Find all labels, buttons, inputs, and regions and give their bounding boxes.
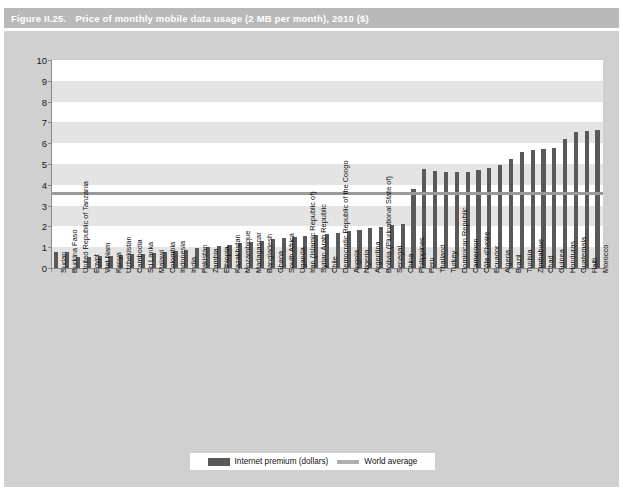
x-tick-label: Ecuador: [492, 245, 501, 273]
y-tick-mark: [48, 164, 52, 165]
y-tick-mark: [48, 60, 52, 61]
x-axis-labels: SudanBurkina FasoUnited Republic of Tanz…: [51, 273, 603, 433]
figure-container: Figure II.25. Price of monthly mobile da…: [0, 0, 623, 495]
y-tick-label: 2: [25, 221, 47, 232]
x-tick-label: Haiti: [590, 258, 599, 273]
y-tick-label: 4: [25, 179, 47, 190]
x-tick-label: Dominican Republic: [460, 207, 469, 273]
y-tick-mark: [48, 102, 52, 103]
legend-label-internet-premium: Internet premium (dollars): [235, 457, 329, 466]
bar: [552, 148, 556, 268]
bar: [433, 171, 437, 268]
x-tick-label: Colombia: [168, 242, 177, 273]
x-tick-label: United Republic of Tanzania: [81, 181, 90, 273]
legend-item-world-average: World average: [337, 457, 417, 466]
y-tick-mark: [48, 206, 52, 207]
y-axis-labels: 012345678910: [23, 60, 47, 269]
y-tick-mark: [48, 143, 52, 144]
y-tick-mark: [48, 185, 52, 186]
x-tick-label: Ghana: [276, 251, 285, 273]
x-tick-label: Iran (Islamic Republic of): [308, 191, 317, 273]
legend-label-world-average: World average: [364, 457, 417, 466]
x-tick-label: Ethiopia: [222, 246, 231, 273]
x-tick-label: Turkey: [449, 251, 458, 273]
y-tick-label: 3: [25, 200, 47, 211]
y-tick-label: 6: [25, 138, 47, 149]
y-tick-mark: [48, 81, 52, 82]
y-tick-label: 5: [25, 159, 47, 170]
x-tick-label: Madagascar: [254, 232, 263, 273]
x-tick-label: Zimbabwe: [536, 239, 545, 273]
x-tick-label: Thailand: [438, 245, 447, 273]
x-tick-label: Guinea: [557, 249, 566, 273]
x-tick-label: Uzbekistan: [124, 236, 133, 273]
y-tick-mark: [48, 247, 52, 248]
x-tick-label: Kazakhstan: [233, 234, 242, 273]
y-tick-mark: [48, 122, 52, 123]
chart-legend: Internet premium (dollars) World average: [190, 453, 435, 470]
y-tick-label: 7: [25, 117, 47, 128]
x-tick-label: Kenya: [114, 252, 123, 273]
x-tick-label: Uganda: [298, 247, 307, 273]
y-tick-label: 1: [25, 242, 47, 253]
x-tick-label: Senegal: [395, 246, 404, 273]
x-tick-label: Algeria: [503, 250, 512, 273]
x-tick-label: South Africa: [287, 233, 296, 273]
figure-number: Figure II.25.: [11, 13, 66, 24]
y-tick-label: 0: [25, 263, 47, 274]
x-tick-label: Chad: [546, 255, 555, 273]
x-tick-label: India: [189, 257, 198, 273]
y-tick-mark: [48, 268, 52, 269]
x-tick-label: Tunisia: [525, 249, 534, 273]
y-tick-label: 10: [25, 55, 47, 66]
line-swatch-icon: [337, 460, 359, 464]
x-tick-label: Indonesia: [178, 241, 187, 273]
figure-title-bar: Figure II.25. Price of monthly mobile da…: [4, 8, 619, 28]
x-tick-label: Morocco: [601, 245, 610, 273]
legend-item-internet-premium: Internet premium (dollars): [208, 457, 329, 466]
y-tick-mark: [48, 226, 52, 227]
x-tick-label: Côte d'Ivoire: [482, 232, 491, 273]
world-average-line: [51, 192, 603, 195]
bar: [54, 252, 58, 268]
y-tick-label: 8: [25, 96, 47, 107]
x-tick-label: Guatemala: [579, 237, 588, 273]
x-tick-label: Bangladesh: [265, 234, 274, 273]
x-tick-label: Nigeria: [362, 250, 371, 273]
x-tick-mark: [51, 269, 52, 272]
x-tick-label: Burkina Faso: [70, 229, 79, 273]
x-tick-label: Philippines: [417, 237, 426, 273]
x-tick-label: Angola: [352, 250, 361, 273]
x-tick-label: Chile: [330, 256, 339, 273]
x-tick-label: Sudan: [59, 252, 68, 273]
x-tick-label: Brazil: [514, 255, 523, 273]
x-tick-label: Mozambique: [243, 231, 252, 273]
x-tick-label: Honduras: [568, 241, 577, 273]
x-tick-label: Democratic Republic of the Congo: [341, 160, 350, 273]
bar: [595, 130, 599, 268]
x-tick-label: Argentina: [373, 241, 382, 273]
figure-title: Price of monthly mobile data usage (2 MB…: [75, 13, 369, 24]
x-tick-label: Egypt: [92, 254, 101, 273]
x-tick-label: Syrian Arab Republic: [319, 204, 328, 273]
x-tick-label: Cameroon: [471, 238, 480, 273]
x-tick-label: Zambia: [211, 248, 220, 273]
y-tick-label: 9: [25, 75, 47, 86]
x-tick-label: Malawi: [157, 250, 166, 273]
x-tick-label: Bolivia (Plurinational State of): [384, 176, 393, 273]
x-tick-label: Pakistan: [200, 245, 209, 273]
x-tick-label: Cambodia: [135, 239, 144, 273]
x-tick-label: China: [406, 254, 415, 273]
bar: [520, 152, 524, 268]
x-tick-label: Viet Nam: [103, 243, 112, 273]
chart-frame: TELECOMMUNICATIONS 012345678910 SudanBur…: [4, 31, 619, 487]
bar-swatch-icon: [208, 458, 230, 466]
x-tick-label: Peru: [427, 257, 436, 273]
x-tick-label: Sri Lanka: [146, 242, 155, 273]
